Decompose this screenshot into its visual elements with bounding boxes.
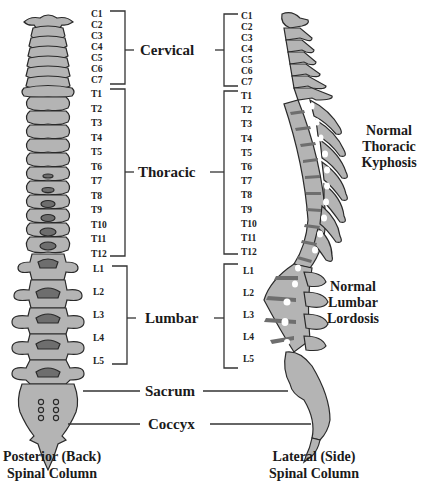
spine-diagram-graphics <box>0 0 426 495</box>
vertebra-label: C5 <box>91 53 103 63</box>
vertebra-label: L4 <box>93 333 104 343</box>
vertebra-label: L4 <box>243 332 254 342</box>
vertebra-label: T6 <box>241 162 252 172</box>
vertebra-label: C6 <box>91 64 103 74</box>
vertebra-label: T11 <box>241 233 256 243</box>
vertebra-label: T9 <box>91 205 102 215</box>
vertebra-label: L2 <box>243 288 254 298</box>
region-label-cervical: Cervical <box>140 42 194 58</box>
vertebra-label: T12 <box>241 247 257 257</box>
vertebra-label: T1 <box>241 91 252 101</box>
vertebra-label: T7 <box>241 176 252 186</box>
lordosis-line-3: Lordosis <box>318 311 388 327</box>
vertebra-label: L1 <box>243 266 254 276</box>
vertebra-label: C2 <box>91 20 103 30</box>
vertebra-label: C7 <box>241 77 253 87</box>
vertebra-label: C4 <box>91 42 103 52</box>
vertebra-label: T2 <box>91 104 102 114</box>
vertebra-label: T3 <box>241 119 252 129</box>
vertebra-label: T9 <box>241 205 252 215</box>
posterior-caption-line-2: Spinal Column <box>0 465 104 482</box>
vertebra-label: C2 <box>241 22 253 32</box>
vertebra-label: T7 <box>91 176 102 186</box>
vertebra-label: T11 <box>91 234 106 244</box>
lordosis-line-2: Lumbar <box>318 295 388 311</box>
vertebra-label: C3 <box>241 33 253 43</box>
region-label-coccyx: Coccyx <box>148 416 195 432</box>
posterior-caption-line-1: Posterior (Back) <box>0 448 104 465</box>
vertebra-label: C6 <box>241 66 253 76</box>
vertebra-label: T8 <box>91 191 102 201</box>
vertebra-label: L2 <box>93 287 104 297</box>
vertebra-label: L3 <box>243 310 254 320</box>
vertebra-label: T8 <box>241 190 252 200</box>
region-label-sacrum: Sacrum <box>145 383 195 399</box>
region-label-thoracic: Thoracic <box>138 164 196 180</box>
vertebra-label: L5 <box>93 356 104 366</box>
vertebra-label: C7 <box>91 75 103 85</box>
bracket-lines <box>68 11 311 424</box>
vertebra-label: C1 <box>241 11 253 21</box>
vertebra-label: L1 <box>93 264 104 274</box>
lordosis-line-1: Normal <box>318 279 388 295</box>
vertebra-label: T4 <box>241 134 252 144</box>
vertebra-label: C1 <box>91 9 103 19</box>
lordosis-label: Normal Lumbar Lordosis <box>318 279 388 327</box>
vertebra-label: T12 <box>91 249 107 259</box>
region-label-lumbar: Lumbar <box>145 310 198 326</box>
lateral-spine <box>264 13 347 462</box>
vertebra-label: T5 <box>241 148 252 158</box>
kyphosis-label: Normal Thoracic Kyphosis <box>354 123 424 171</box>
vertebra-label: L5 <box>243 354 254 364</box>
posterior-caption: Posterior (Back) Spinal Column <box>0 448 104 482</box>
lateral-caption-line-2: Spinal Column <box>262 465 366 482</box>
vertebra-label: T2 <box>241 105 252 115</box>
posterior-spine <box>12 15 84 470</box>
vertebra-label: T5 <box>91 147 102 157</box>
lateral-caption: Lateral (Side) Spinal Column <box>262 448 366 482</box>
kyphosis-line-2: Thoracic <box>354 139 424 155</box>
vertebra-label: T4 <box>91 133 102 143</box>
lateral-caption-line-1: Lateral (Side) <box>262 448 366 465</box>
vertebra-label: C4 <box>241 44 253 54</box>
kyphosis-line-1: Normal <box>354 123 424 139</box>
vertebra-label: L3 <box>93 310 104 320</box>
vertebra-label: T6 <box>91 162 102 172</box>
kyphosis-line-3: Kyphosis <box>354 155 424 171</box>
vertebra-label: C3 <box>91 31 103 41</box>
vertebra-label: T3 <box>91 118 102 128</box>
vertebra-label: C5 <box>241 55 253 65</box>
vertebra-label: T1 <box>91 89 102 99</box>
vertebra-label: T10 <box>241 219 257 229</box>
vertebra-label: T10 <box>91 220 107 230</box>
